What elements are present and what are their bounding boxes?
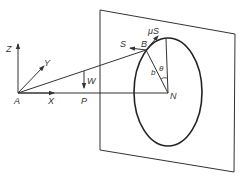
diagram-svg: Z Y A X P W S B μS b θ N <box>0 0 244 182</box>
label-z: Z <box>5 44 12 54</box>
label-n: N <box>170 91 177 101</box>
label-w: W <box>87 76 97 86</box>
label-y: Y <box>44 58 51 68</box>
label-p: P <box>81 96 87 106</box>
friction-arrow <box>146 36 158 50</box>
theta-arc <box>161 78 167 79</box>
label-mu-s: μS <box>147 26 159 36</box>
label-s: S <box>120 39 126 49</box>
label-b-point: B <box>141 39 147 49</box>
label-b-radius: b <box>151 68 156 77</box>
radius-b <box>146 50 168 93</box>
vertical-radius <box>166 39 168 93</box>
diagram-canvas: Z Y A X P W S B μS b θ N <box>0 0 244 182</box>
label-a: A <box>13 96 20 106</box>
label-x: X <box>47 96 55 106</box>
string-a-b <box>18 50 146 93</box>
label-theta: θ <box>159 64 164 73</box>
